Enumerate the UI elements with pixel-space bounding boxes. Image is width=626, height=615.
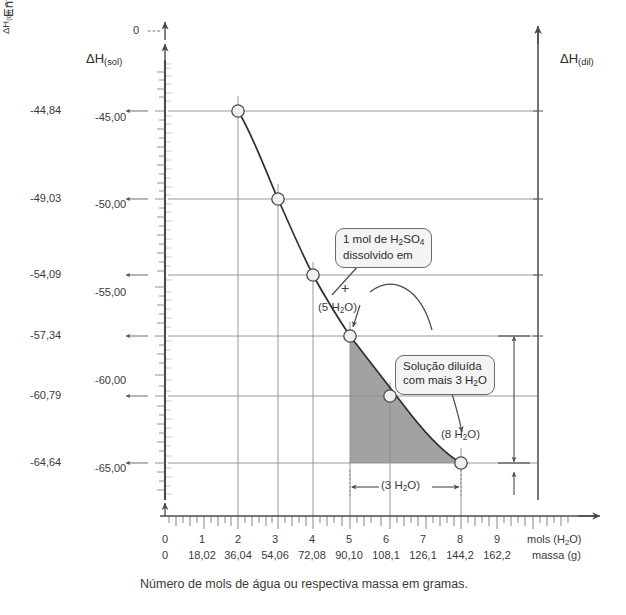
mols-tick-6: 6 (376, 534, 396, 545)
callout-dissolution: 1 mol de H2SO4 dissolvido em (335, 228, 432, 268)
figure-caption: Número de mols de água ou respectiva mas… (140, 578, 468, 591)
figure-root: 0 ΔH(sol) ΔH(dil) Entalpia de solução, Δ… (0, 0, 626, 615)
dilution-bracket (498, 336, 530, 495)
five-water-label: (5 H2O) (318, 302, 357, 315)
three-water-label: (3 H2O) (381, 480, 420, 493)
value-tick-2: -49,03 (30, 193, 61, 204)
dilution-bracket-label: ΔH(dil) = -7,30 kJ mol-1 (0, 0, 12, 34)
mols-tick-1: 1 (192, 534, 212, 545)
scale-tick-3: -55,00 (95, 287, 126, 298)
scale-tick-5: -65,00 (95, 463, 126, 474)
eight-water-label: (8 H2O) (441, 429, 480, 442)
mols-tick-5: 5 (339, 534, 359, 545)
callout-dilution: Solução diluída com mais 3 H2O (395, 355, 495, 395)
mols-tick-4: 4 (302, 534, 322, 545)
right-axis-symbol: ΔH(dil) (560, 52, 594, 68)
mass-tick-9: 162,2 (472, 550, 522, 561)
mols-tick-0: 0 (155, 534, 175, 545)
mols-tick-7: 7 (413, 534, 433, 545)
left-axis-symbol: ΔH(sol) (86, 52, 122, 68)
callout-dissolution-line2: dissolvido em (343, 248, 424, 262)
scale-tick-1: -45,00 (95, 112, 126, 123)
mols-tick-3: 3 (265, 534, 285, 545)
enthalpy-curve (238, 111, 461, 463)
callout-dissolution-line1: 1 mol de H2SO4 (343, 232, 424, 248)
callout-dilution-line1: Solução diluída (403, 359, 487, 373)
left-ruler-axis (148, 22, 172, 500)
bottom-minor-ticks (169, 516, 568, 529)
callout-dilution-line2: com mais 3 H2O (403, 373, 487, 389)
scale-tick-2: -50,00 (95, 199, 126, 210)
value-tick-3: -54,09 (30, 269, 61, 280)
mass-unit-label: massa (g) (532, 550, 581, 561)
value-tick-5: -60,79 (30, 390, 61, 401)
data-point-markers (232, 105, 467, 469)
mols-tick-9: 9 (487, 534, 507, 545)
chart-canvas (0, 0, 626, 615)
mols-tick-8: 8 (450, 534, 470, 545)
value-tick-1: -44,84 (30, 105, 61, 116)
scale-tick-4: -60,00 (95, 375, 126, 386)
value-tick-6: -64,64 (30, 457, 61, 468)
zero-label: 0 (133, 25, 139, 36)
bottom-ruler-axis (160, 503, 600, 529)
mols-tick-2: 2 (228, 534, 248, 545)
plus-sign: + (341, 281, 349, 295)
right-axis (533, 26, 543, 500)
left-value-connectors (126, 111, 148, 463)
mass-tick-0: 0 (155, 550, 175, 561)
mols-unit-label: mols (H2O) (527, 534, 582, 547)
value-tick-4: -57,34 (30, 330, 61, 341)
